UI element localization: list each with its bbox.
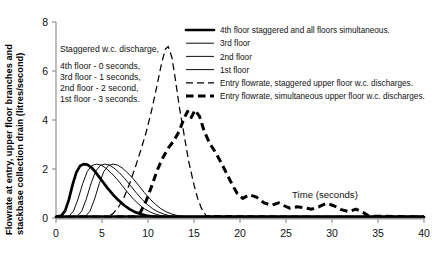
legend-item-4: Entry flowrate, staggered upper floor w.… [186,79,413,88]
y-axis-title-line1: Flowrate at entry, upper floor branches … [4,44,14,235]
x-axis-tick-label: 10 [142,227,154,239]
y-axis-title-line2: stackbase collection drain (litres/secon… [15,53,25,235]
y-axis-title: Flowrate at entry, upper floor branches … [4,44,25,235]
flowrate-time-chart: Flowrate at entry, upper floor branches … [0,0,432,260]
baseline [56,217,424,219]
series-line-0 [56,164,424,217]
x-axis-tick-label: 40 [418,227,430,239]
legend-item-5: Entry flowrate, simultaneous upper floor… [186,92,425,101]
annotation-line-3: 1st floor - 3 seconds. [60,94,140,104]
x-axis-tick-label: 0 [53,227,59,239]
legend: 4th floor staggered and all floors simul… [186,26,425,101]
y-axis-tick-label: 8 [42,16,48,28]
x-axis-tick-label: 15 [188,227,200,239]
annotation-heading: Staggered w.c. discharge, [60,44,159,54]
legend-label-2: 2nd floor [220,53,252,62]
annotation-line-0: 4th floor - 0 seconds, [60,61,140,71]
x-axis-tick-label: 35 [372,227,384,239]
legend-item-2: 2nd floor [186,53,252,62]
y-axis-tick-label: 2 [42,163,48,175]
annotation-block: Staggered w.c. discharge, 4th floor - 0 … [60,44,159,104]
x-axis-tick-label: 30 [326,227,338,239]
x-axis-tick-label: 5 [99,227,105,239]
legend-label-4: Entry flowrate, staggered upper floor w.… [220,79,413,88]
legend-item-1: 3rd floor [186,39,250,48]
legend-label-3: 1st floor [220,66,249,75]
x-axis-tick-label: 25 [280,227,292,239]
legend-label-5: Entry flowrate, simultaneous upper floor… [220,92,425,101]
legend-item-3: 1st floor [186,66,249,75]
y-axis-tick-label: 0 [42,212,48,224]
legend-label-0: 4th floor staggered and all floors simul… [220,26,390,35]
series-line-5 [56,110,424,217]
legend-item-0: 4th floor staggered and all floors simul… [186,26,390,35]
annotation-line-2: 2nd floor - 2 second, [60,83,138,93]
legend-label-1: 3rd floor [220,39,250,48]
x-axis-tick-label: 20 [234,227,246,239]
y-axis-tick-label: 4 [42,114,48,126]
y-axis-tick-label: 6 [42,65,48,77]
annotation-line-1: 3rd floor - 1 seconds, [60,72,141,82]
chart-figure: Flowrate at entry, upper floor branches … [0,0,432,260]
x-axis-title: Time (seconds) [292,189,358,200]
